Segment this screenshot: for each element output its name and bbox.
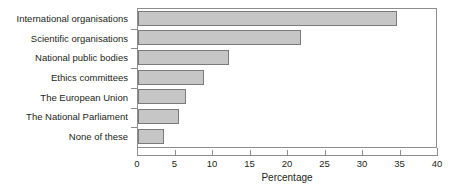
category-axis-labels: International organisationsScientific or… [0, 9, 133, 147]
bar[interactable] [138, 89, 186, 104]
x-axis-tick-label: 20 [272, 158, 302, 169]
bar[interactable] [138, 30, 301, 45]
x-axis-tick-label: 15 [235, 158, 265, 169]
category-label: None of these [0, 132, 133, 142]
x-axis-tick-label: 5 [160, 158, 190, 169]
x-axis-tick [212, 150, 213, 155]
bar[interactable] [138, 109, 179, 124]
x-axis-tick [287, 150, 288, 155]
x-axis-tick [175, 150, 176, 155]
bars-container [138, 9, 437, 147]
y-axis-tick [131, 29, 138, 30]
x-axis-tick [362, 150, 363, 155]
x-axis-tick [437, 150, 438, 155]
y-axis-tick [131, 108, 138, 109]
bar-slot [138, 48, 437, 68]
x-axis-tick-label: 40 [422, 158, 452, 169]
x-axis-tick-label: 10 [197, 158, 227, 169]
x-axis-tick [325, 150, 326, 155]
bar-slot [138, 29, 437, 49]
bar-chart: International organisationsScientific or… [0, 0, 464, 194]
y-axis-tick [131, 88, 138, 89]
bar-slot [138, 9, 437, 29]
category-label: National public bodies [0, 53, 133, 63]
bar[interactable] [138, 11, 397, 26]
x-axis-tick-label: 0 [122, 158, 152, 169]
x-axis-tick-label: 25 [310, 158, 340, 169]
bar[interactable] [138, 70, 204, 85]
x-axis-tick-label: 30 [347, 158, 377, 169]
x-axis-line [137, 155, 438, 156]
x-axis-tick-label: 35 [385, 158, 415, 169]
bar[interactable] [138, 50, 229, 65]
category-label: Ethics committees [0, 73, 133, 83]
y-axis-tick [131, 48, 138, 49]
x-axis-tick [400, 150, 401, 155]
y-axis-tick [131, 127, 138, 128]
x-axis-title: Percentage [137, 172, 437, 184]
category-label: International organisations [0, 14, 133, 24]
category-label: The European Union [0, 93, 133, 103]
bar-slot [138, 88, 437, 108]
bar[interactable] [138, 129, 164, 144]
category-label: Scientific organisations [0, 34, 133, 44]
x-axis-tick [250, 150, 251, 155]
bar-slot [138, 68, 437, 88]
category-label: The National Parliament [0, 112, 133, 122]
bar-slot [138, 127, 437, 147]
y-axis-tick [131, 68, 138, 69]
bar-slot [138, 108, 437, 128]
x-axis-tick [137, 150, 138, 155]
